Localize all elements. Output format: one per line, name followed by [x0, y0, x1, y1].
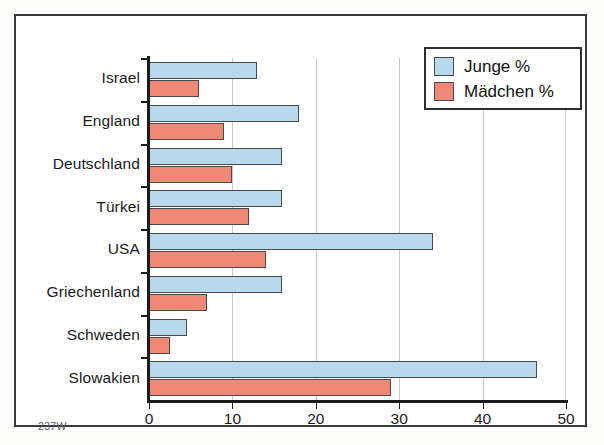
x-tick-50	[566, 403, 567, 409]
x-tick-40	[483, 403, 484, 409]
bar-trkei-girls	[149, 208, 249, 225]
y-tick-1	[141, 101, 148, 103]
y-tick-2	[141, 144, 148, 146]
bar-usa-girls	[149, 251, 266, 268]
x-tick-label-40: 40	[474, 410, 491, 428]
x-tick-label-20: 20	[307, 410, 324, 428]
x-tick-label-30: 30	[391, 410, 408, 428]
category-label-israel: Israel	[20, 69, 140, 87]
bar-slowakien-boys	[149, 361, 537, 378]
legend-item-boys: Junge %	[434, 54, 572, 79]
y-tick-7	[141, 357, 148, 359]
category-label-griechenland: Griechenland	[20, 283, 140, 301]
bar-deutschland-boys	[149, 148, 282, 165]
chart-page: IsraelEnglandDeutschlandTürkeiUSAGrieche…	[0, 0, 604, 445]
legend-swatch-girls-icon	[434, 82, 454, 101]
category-label-slowakien: Slowakien	[20, 369, 140, 387]
legend-item-girls: Mädchen %	[434, 79, 572, 104]
bar-schweden-girls	[149, 337, 170, 354]
category-label-england: England	[20, 112, 140, 130]
y-tick-0	[141, 58, 148, 60]
x-tick-0	[149, 403, 150, 409]
y-tick-3	[141, 186, 148, 188]
x-tick-20	[316, 403, 317, 409]
category-label-schweden: Schweden	[20, 326, 140, 344]
bar-israel-girls	[149, 80, 199, 97]
bar-griechenland-boys	[149, 276, 282, 293]
y-tick-5	[141, 272, 148, 274]
x-tick-30	[399, 403, 400, 409]
x-tick-label-0: 0	[145, 410, 154, 428]
y-tick-4	[141, 229, 148, 231]
bar-trkei-boys	[149, 190, 282, 207]
category-label-usa: USA	[20, 240, 140, 258]
x-tick-label-50: 50	[557, 410, 574, 428]
category-axis-labels: IsraelEnglandDeutschlandTürkeiUSAGrieche…	[16, 58, 140, 400]
bar-usa-boys	[149, 233, 433, 250]
figure-source-code: 237W	[38, 420, 67, 432]
x-axis-line	[147, 400, 568, 403]
legend-label-boys: Junge %	[464, 57, 530, 77]
bar-england-girls	[149, 123, 224, 140]
legend-label-girls: Mädchen %	[464, 82, 554, 102]
bar-england-boys	[149, 105, 299, 122]
y-tick-6	[141, 315, 148, 317]
category-label-trkei: Türkei	[20, 198, 140, 216]
gridline-20	[316, 58, 317, 400]
category-label-deutschland: Deutschland	[20, 155, 140, 173]
bar-griechenland-girls	[149, 294, 207, 311]
figure-frame: IsraelEnglandDeutschlandTürkeiUSAGrieche…	[14, 14, 587, 427]
bar-israel-boys	[149, 62, 257, 79]
x-tick-10	[232, 403, 233, 409]
bar-schweden-boys	[149, 319, 187, 336]
legend-swatch-boys-icon	[434, 57, 454, 76]
bar-deutschland-girls	[149, 166, 232, 183]
gridline-30	[399, 58, 400, 400]
bar-slowakien-girls	[149, 379, 391, 396]
chart-legend: Junge % Mädchen %	[424, 47, 582, 110]
x-tick-label-10: 10	[224, 410, 241, 428]
